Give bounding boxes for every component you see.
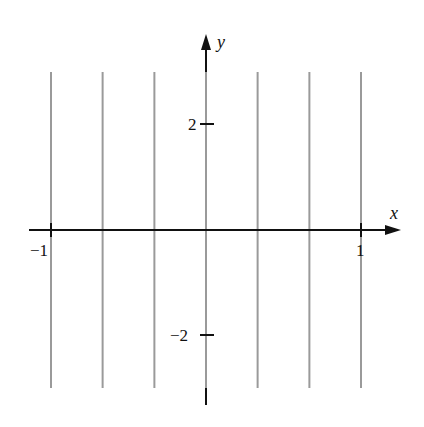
x-axis-label: x [389,203,398,223]
x-tick-label-neg1: −1 [30,241,48,260]
y-axis: y 2 −2 [170,32,225,405]
x-tick-label-1: 1 [356,241,365,260]
y-tick-label-neg2: −2 [170,326,188,345]
y-axis-label: y [215,32,225,52]
x-axis: x −1 1 [29,203,401,260]
y-axis-arrow-icon [201,34,211,50]
chart: x −1 1 y 2 −2 [0,0,424,427]
y-tick-label-2: 2 [188,115,197,134]
x-axis-arrow-icon [385,225,401,235]
